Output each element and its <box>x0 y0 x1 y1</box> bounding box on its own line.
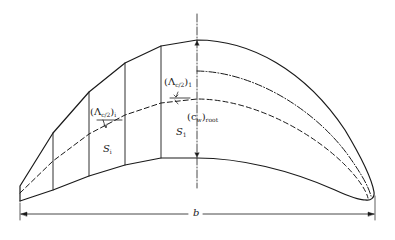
trailing-edge <box>20 158 366 201</box>
root-chord-arrow-bottom <box>195 153 199 157</box>
span-arrow-right <box>368 212 374 216</box>
area-i-index: i <box>110 148 112 155</box>
sweep-arrow-right-top <box>174 92 178 97</box>
root-chord-arrow-top <box>195 41 199 45</box>
reference-line-dash-dot <box>197 71 371 196</box>
label-area-i: Si <box>103 144 112 155</box>
label-area-1: S1 <box>176 127 187 138</box>
span-arrow-left <box>21 212 27 216</box>
area-1-symbol: S <box>176 126 183 137</box>
sweep-angle-arc-right <box>175 100 178 104</box>
sweep-1-open: (Λ <box>164 76 175 87</box>
area-1-index: 1 <box>183 131 187 138</box>
sweep-1-index: 1 <box>188 81 192 88</box>
label-sweep-angle-1: (Λc/2)1 <box>164 77 192 88</box>
label-sweep-angle-i: (Λc/2)i <box>90 107 116 118</box>
root-chord-open: (c <box>187 111 197 122</box>
sweep-1-sub: c/2 <box>175 81 184 88</box>
label-root-chord: (cw)root <box>187 112 218 123</box>
area-i-symbol: S <box>103 143 110 154</box>
sweep-i-index: i <box>114 111 116 118</box>
label-span-b: b <box>193 208 199 218</box>
sweep-i-sub: c/2 <box>101 111 110 118</box>
root-chord-index: root <box>206 116 219 123</box>
sweep-i-open: (Λ <box>90 106 101 117</box>
